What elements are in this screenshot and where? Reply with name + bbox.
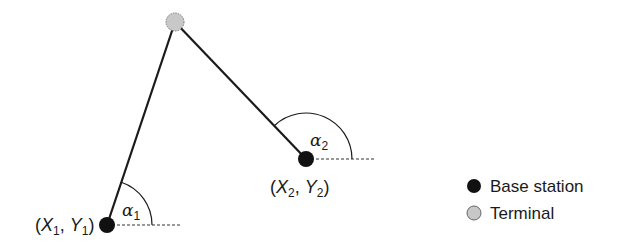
base-station-2-node [298, 151, 314, 167]
legend-terminal-icon [467, 206, 481, 220]
coord-label-bs1: (X1, Y1) [35, 215, 94, 238]
legend-terminal-label: Terminal [490, 204, 554, 223]
angle-label-alpha1: α1 [122, 200, 140, 223]
legend: Base station Terminal [467, 177, 584, 223]
terminal-node [166, 13, 184, 31]
line-bs2-terminal [175, 22, 306, 159]
legend-base-station-icon [467, 179, 481, 193]
base-station-1-node [99, 217, 115, 233]
coord-label-bs2: (X2, Y2) [270, 177, 329, 200]
diagram-canvas: α1 α2 (X1, Y1) (X2, Y2) Base station Ter… [0, 0, 635, 251]
line-bs1-terminal [107, 22, 175, 225]
angle-label-alpha2: α2 [310, 130, 328, 153]
legend-base-station-label: Base station [490, 177, 584, 196]
